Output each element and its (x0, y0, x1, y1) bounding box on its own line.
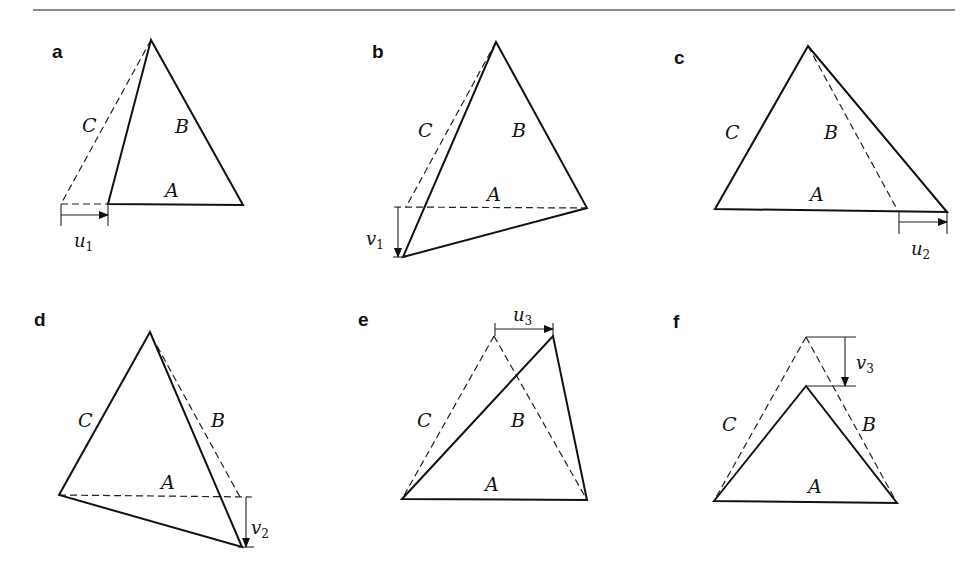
displacement-label: v3 (856, 352, 874, 376)
edge-label-A: A (483, 473, 499, 495)
panel-d: dCBAv2 (34, 309, 269, 547)
edge-label-A: A (159, 471, 175, 493)
edge-label-B: B (210, 409, 225, 431)
edge-label-A: A (806, 475, 822, 497)
displacement-label: u1 (74, 230, 93, 254)
edge-label-B: B (511, 119, 526, 141)
panel-letter: a (52, 41, 63, 62)
edge-label-B: B (510, 409, 525, 431)
edge-label-C: C (722, 413, 737, 435)
panel-f: fCBAv3 (673, 311, 897, 503)
edge-label-A: A (808, 183, 824, 205)
panel-c: cCBAu2 (674, 46, 947, 262)
edge-label-C: C (725, 121, 740, 143)
original-edge-dashed (61, 40, 151, 204)
panel-a: aCBAu1 (52, 40, 243, 254)
panel-letter: d (34, 309, 46, 330)
displacement-label: v2 (251, 517, 269, 541)
edge-label-A: A (485, 183, 501, 205)
edge-label-C: C (417, 409, 432, 431)
deformation-diagram: aCBAu1bCBAv1cCBAu2dCBAv2eCBAu3fCBAv3 (0, 0, 972, 565)
original-edge-dashed (402, 336, 494, 499)
panel-letter: b (372, 41, 384, 62)
panel-e: eCBAu3 (358, 304, 587, 500)
deformed-triangle (59, 332, 242, 547)
edge-label-C: C (78, 409, 93, 431)
edge-label-B: B (861, 413, 876, 435)
panel-letter: f (673, 311, 680, 332)
edge-label-C: C (82, 114, 97, 136)
panel-b: bCBAv1 (366, 41, 587, 257)
edge-label-C: C (418, 119, 433, 141)
original-edge-dashed (494, 336, 587, 500)
deformed-triangle (714, 386, 897, 503)
original-edge-dashed (394, 207, 587, 208)
displacement-label: u2 (911, 238, 930, 262)
edge-label-A: A (163, 179, 179, 201)
original-edge-dashed (59, 495, 252, 497)
panels-group: aCBAu1bCBAv1cCBAu2dCBAv2eCBAu3fCBAv3 (34, 40, 947, 547)
displacement-label: v1 (366, 228, 384, 252)
displacement-label: u3 (513, 304, 532, 328)
edge-label-B: B (174, 115, 189, 137)
edge-label-B: B (823, 121, 838, 143)
panel-letter: e (358, 309, 369, 330)
panel-letter: c (674, 47, 685, 68)
deformed-triangle (403, 42, 587, 257)
